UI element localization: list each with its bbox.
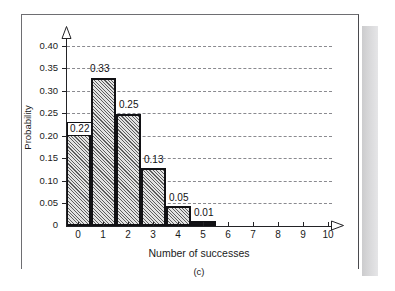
y-axis-arrow-icon: [61, 26, 72, 39]
figure-caption: (c): [66, 266, 332, 277]
gridline-0.40: [67, 46, 332, 47]
x-tick-0: [78, 222, 79, 227]
value-label-x5: 0.01: [193, 207, 214, 218]
x-tick-9: [303, 222, 304, 227]
value-label-x2: 0.25: [118, 99, 139, 110]
y-tick-label-0.10: 0.10: [18, 176, 58, 186]
x-tick-label-5: 5: [191, 229, 215, 241]
y-axis-title: Probability: [22, 88, 33, 168]
x-tick-label-6: 6: [216, 229, 240, 241]
x-tick-1: [103, 222, 104, 227]
y-tick-0.40: [62, 46, 67, 47]
x-tick-label-8: 8: [266, 229, 290, 241]
y-tick-label-0.40: 0.40: [18, 41, 58, 51]
x-tick-5: [203, 222, 204, 227]
figure-root: 0.22 0.33 0.25 0.13 0.05 0.01 0.40 0.35 …: [0, 0, 395, 291]
y-tick-label-0.05: 0.05: [18, 198, 58, 208]
bar-x3: [141, 168, 166, 226]
x-tick-4: [178, 222, 179, 227]
y-tick-0.35: [62, 68, 67, 69]
x-tick-label-2: 2: [116, 229, 140, 241]
x-tick-label-7: 7: [241, 229, 265, 241]
y-axis-line: [66, 38, 67, 226]
bar-x1: [91, 78, 116, 226]
x-tick-label-9: 9: [291, 229, 315, 241]
x-tick-6: [228, 222, 229, 227]
y-tick-0.20: [62, 136, 67, 137]
x-tick-label-0: 0: [66, 229, 90, 241]
y-tick-label-0.35: 0.35: [18, 63, 58, 73]
x-tick-8: [278, 222, 279, 227]
x-tick-label-4: 4: [166, 229, 190, 241]
x-tick-10: [328, 222, 329, 227]
y-tick-0.15: [62, 158, 67, 159]
x-axis-title: Number of successes: [66, 247, 332, 259]
x-tick-label-3: 3: [141, 229, 165, 241]
y-tick-0.25: [62, 113, 67, 114]
x-tick-label-10: 10: [316, 229, 340, 241]
y-tick-0.05: [62, 203, 67, 204]
histogram-plot-area: 0.22 0.33 0.25 0.13 0.05 0.01 0.40 0.35 …: [0, 0, 395, 291]
x-axis-line: [66, 226, 332, 227]
x-tick-3: [153, 222, 154, 227]
bar-x2: [116, 114, 141, 226]
value-label-x1: 0.33: [89, 63, 110, 74]
y-tick-0.30: [62, 91, 67, 92]
value-label-x4: 0.05: [168, 192, 189, 203]
y-tick-label-0: 0: [18, 220, 58, 230]
bar-x0: [66, 127, 91, 226]
value-label-x0: 0.22: [67, 122, 92, 136]
x-tick-label-1: 1: [91, 229, 115, 241]
x-tick-2: [128, 222, 129, 227]
y-tick-0.10: [62, 181, 67, 182]
x-tick-7: [253, 222, 254, 227]
value-label-x3: 0.13: [143, 154, 164, 165]
